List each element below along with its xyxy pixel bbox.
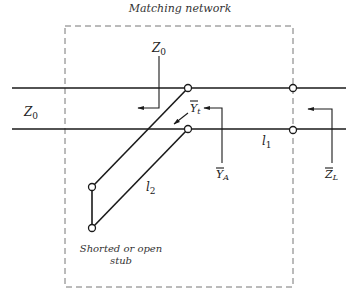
yt-arrow <box>174 113 188 124</box>
yt-label: Yt <box>190 102 201 116</box>
load-node-bottom <box>290 127 297 134</box>
z0-top-label: Z0 <box>151 41 166 57</box>
zl-arrow <box>308 109 332 163</box>
diagram-title: Matching network <box>128 2 232 15</box>
ya-arrow <box>204 108 222 163</box>
stub-caption-line2: stub <box>110 255 132 266</box>
z0-arrow <box>138 56 159 108</box>
z0-line-label: Z0 <box>23 105 38 121</box>
ya-label: YA <box>216 168 229 182</box>
l2-label: l2 <box>146 180 156 196</box>
stub-node-top <box>89 184 96 191</box>
stub-node-bottom <box>89 225 96 232</box>
l1-label: l1 <box>262 134 272 150</box>
junction-node-bottom <box>185 126 192 133</box>
load-node-top <box>290 85 297 92</box>
stub-line-lower <box>92 129 188 228</box>
matching-network-diagram: Matching network Z0 Z0 Yt YA ZL l1 l2 Sh… <box>0 0 354 297</box>
stub-caption-line1: Shorted or open <box>80 243 162 254</box>
junction-node-top <box>185 85 192 92</box>
stub-line-upper <box>92 88 188 187</box>
zl-label: ZL <box>324 168 338 182</box>
